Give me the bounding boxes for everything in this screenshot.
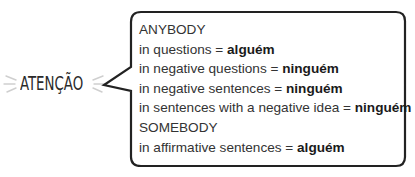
rule-line: in affirmative sentences = alguém <box>139 138 404 158</box>
callout-content: ANYBODY in questions = alguém in negativ… <box>139 20 404 157</box>
heading-anybody: ANYBODY <box>139 20 404 40</box>
heading-somebody: SOMEBODY <box>139 118 404 138</box>
rule-line: in negative sentences = ninguém <box>139 79 404 99</box>
rule-line: in questions = alguém <box>139 40 404 60</box>
rule-line: in negative questions = ninguém <box>139 59 404 79</box>
rule-line: in sentences with a negative idea = ning… <box>139 98 404 118</box>
